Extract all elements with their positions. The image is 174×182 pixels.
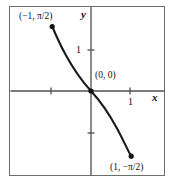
endpoint-marker-right — [129, 154, 134, 159]
y-axis-label: y — [81, 9, 86, 20]
right-endpoint-label: (1, −π/2) — [110, 163, 143, 173]
y-tick-label-one: 1 — [76, 45, 81, 55]
graph-figure: y x 1 1 (0, 0) (−1, π/2) (1, −π/2) — [0, 0, 174, 182]
left-endpoint-label: (−1, π/2) — [19, 12, 52, 22]
origin-point-label: (0, 0) — [95, 71, 116, 81]
x-axis-label: x — [152, 92, 158, 103]
graph-canvas — [0, 0, 174, 182]
x-tick-label-one: 1 — [128, 97, 133, 107]
origin-marker — [88, 88, 93, 93]
endpoint-marker-left — [50, 24, 55, 29]
